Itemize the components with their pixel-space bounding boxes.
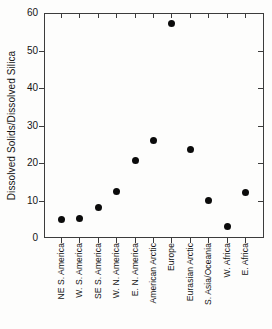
y-tick-left (39, 163, 44, 164)
data-point (224, 223, 231, 230)
y-tick-left (39, 88, 44, 89)
data-point (95, 204, 102, 211)
x-tick-top (227, 14, 228, 18)
x-tick-label: W. N. America (111, 243, 122, 327)
x-tick-top (116, 14, 117, 18)
y-tick-label: 60 (12, 7, 38, 19)
x-tick-label: W. S. America (74, 243, 85, 327)
data-point (150, 137, 157, 144)
y-tick-label: 30 (12, 120, 38, 132)
y-tick-right (258, 51, 263, 52)
x-tick-top (135, 14, 136, 18)
x-tick-label: E. Africa (240, 243, 251, 327)
y-tick-right (258, 163, 263, 164)
x-tick-label: SE S. America (93, 243, 104, 327)
data-point (58, 216, 65, 223)
x-tick-top (61, 14, 62, 18)
x-tick-top (245, 14, 246, 18)
y-tick-label: 50 (12, 45, 38, 57)
y-tick-label: 20 (12, 157, 38, 169)
x-tick-label: W. Africa (222, 243, 233, 327)
x-tick-top (171, 14, 172, 18)
y-tick-right (258, 201, 263, 202)
x-tick-top (153, 14, 154, 18)
data-point (242, 189, 249, 196)
x-tick-top (190, 14, 191, 18)
x-tick-label: NE S. America (56, 243, 67, 327)
x-tick-label: Eurasian Arctic (185, 243, 196, 327)
y-tick-right (258, 126, 263, 127)
x-tick-top (98, 14, 99, 18)
x-tick-label: E. N. America (130, 243, 141, 327)
y-tick-label: 0 (12, 232, 38, 244)
y-tick-right (258, 88, 263, 89)
y-tick-label: 40 (12, 82, 38, 94)
x-tick-top (79, 14, 80, 18)
y-tick-left (39, 51, 44, 52)
x-tick-label: American Arctic (148, 243, 159, 327)
plot-area (44, 13, 264, 238)
y-tick-left (39, 126, 44, 127)
data-point (132, 157, 139, 164)
x-tick-top (208, 14, 209, 18)
scatter-chart-figure: Dissolved Solids/Dissolved Silica 010203… (0, 0, 272, 329)
y-tick-left (39, 201, 44, 202)
x-tick-label: Europe (166, 243, 177, 327)
y-tick-label: 10 (12, 195, 38, 207)
x-tick-label: S. Asia/Oceania (203, 243, 214, 327)
